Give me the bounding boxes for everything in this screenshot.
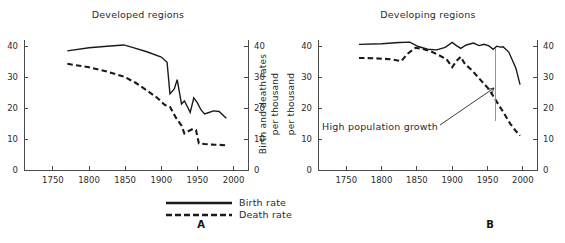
y-tick-label: 30 [7,72,18,82]
series-line-death-rate [67,64,226,145]
axis-frame [24,40,248,170]
x-tick-label: 1800 [78,175,100,185]
y-tick-label: 40 [7,41,18,51]
y-tick-label: 40 [543,41,554,51]
x-tick-label: 1950 [187,175,209,185]
y-tick-label: 30 [301,72,312,82]
x-tick-label: 1900 [441,175,463,185]
panel-b-annotation: High population growth [322,48,495,132]
panel-b-yticklabels-left: 010203040 [301,41,312,175]
y-tick-label: 30 [543,72,554,82]
annotation-label: High population growth [322,121,438,132]
birth-death-rate-figure: Developed regions 010203040 010203040 17… [0,0,565,243]
axis-frame [318,40,537,170]
series-line-birth-rate [359,42,520,84]
panel-b-left-axis-title: per thousand [286,73,296,135]
panel-a-yticklabels-left: 010203040 [7,41,18,175]
x-tick-label: 2000 [223,175,245,185]
x-tick-label: 1850 [114,175,136,185]
panel-a-series [67,45,226,145]
panel-a: Developed regions 010203040 010203040 17… [7,9,265,230]
panel-a-axes [24,40,248,170]
y-tick-label: 10 [7,134,18,144]
right-axis-title-line1: Birth and death rates [258,54,268,154]
x-tick-label: 1850 [406,175,428,185]
legend-label-birth-rate: Birth rate [239,197,286,208]
x-tick-label: 1950 [477,175,499,185]
y-tick-label: 20 [7,103,18,113]
right-axis-title-line2: per thousand [270,73,280,135]
panel-b-axes [318,40,537,170]
y-tick-label: 0 [254,165,259,175]
y-tick-label: 40 [254,41,265,51]
panel-a-xticklabels: 175018001850190019502000 [42,175,244,185]
y-tick-label: 20 [301,103,312,113]
figure-container: Developed regions 010203040 010203040 17… [0,0,565,243]
y-tick-label: 20 [543,103,554,113]
y-tick-label: 0 [13,165,18,175]
x-tick-label: 1750 [42,175,64,185]
panel-b-letter: B [486,219,494,230]
panel-b-title: Developing regions [380,9,475,20]
y-tick-label: 0 [543,165,548,175]
y-tick-label: 10 [301,134,312,144]
figure-legend: Birth rate Death rate [166,197,292,220]
panel-a-letter: A [197,219,205,230]
right-axis-title-group: Birth and death rates per thousand [258,54,280,154]
x-tick-label: 1750 [335,175,357,185]
x-tick-label: 2000 [512,175,534,185]
y-tick-label: 40 [301,41,312,51]
x-tick-label: 1800 [371,175,393,185]
series-line-birth-rate [67,45,226,118]
panel-a-title: Developed regions [92,9,184,20]
panel-b-yticklabels-right: 010203040 [543,41,554,175]
panel-b-left-axis-title-group: per thousand [286,73,296,135]
y-tick-label: 10 [543,134,554,144]
x-tick-label: 1900 [150,175,172,185]
y-tick-label: 0 [307,165,312,175]
panel-b-xticklabels: 175018001850190019502000 [335,175,533,185]
legend-label-death-rate: Death rate [239,209,292,220]
panel-b: Developing regions 010203040 010203040 1… [301,9,554,230]
annotation-leader-line [440,88,494,125]
